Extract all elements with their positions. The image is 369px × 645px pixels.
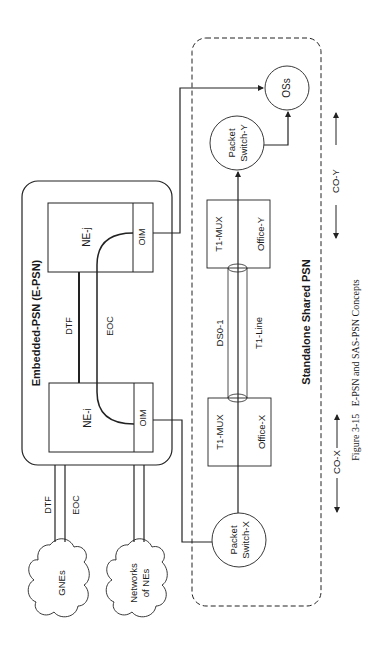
ds0-1-label: DS0-1 [214,320,225,347]
packet-switch-y-label-line1: Packet [226,128,237,157]
ne-i-oim-label: OIM [138,410,148,427]
cloud-networks-label-line2: of NEs [140,568,151,597]
eoc-link [97,233,134,424]
oss-label: OSs [281,78,292,97]
t1-line-label: T1-Line [253,317,264,349]
embedded-psn-title: Embedded-PSN (E-PSN) [30,259,42,386]
ne-i-label: NE-i [82,408,93,427]
co-y-label: CO-Y [330,168,341,192]
office-indicators: CO-Y CO-X [330,113,342,512]
diagram-canvas: Embedded-PSN (E-PSN) NE-j OIM NE-i OIM D… [0,0,369,645]
external-networks-group: DTF EOC GNEs Networks of NEs [28,465,167,617]
external-dtf-label: DTF [43,496,53,514]
ne-j-label: NE-j [81,227,92,246]
dtf-link-label: DTF [64,317,74,335]
packet-switch-y-label-line2: Switch-Y [238,124,249,162]
co-x-label: CO-X [331,449,342,473]
figure-caption: Figure 3-15 E-PSN and SAS-PSN Concepts [350,279,361,461]
cloud-gnes-label: GNEs [56,570,67,596]
cloud-networks-label-line1: Networks [128,563,139,603]
psy-to-oss-link [264,112,288,145]
standalone-psn-group: Standalone Shared PSN OSs Packet Switch-… [192,38,321,606]
office-x-label: Office-X [256,414,267,449]
embedded-psn-group: Embedded-PSN (E-PSN) NE-j OIM NE-i OIM D… [22,181,172,465]
ne-j-oim-label: OIM [137,229,147,246]
office-y-label: Office-Y [255,216,266,251]
t1-mux-x-label: T1-MUX [214,414,225,450]
eoc-link-label: EOC [105,316,115,336]
standalone-psn-title: Standalone Shared PSN [300,259,312,384]
ne-i-oim-to-packet-switch-x [153,420,212,542]
external-eoc-label: EOC [71,495,81,515]
t1-mux-y-label: T1-MUX [213,216,224,252]
packet-switch-x-label-line2: Switch-X [240,521,251,559]
packet-switch-x-label-line1: Packet [228,525,239,554]
